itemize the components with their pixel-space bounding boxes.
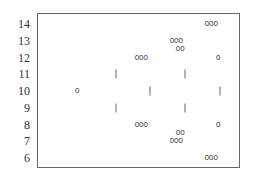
circle-marker: o xyxy=(216,121,220,129)
y-tick-label: 14 xyxy=(10,18,30,30)
plot-frame xyxy=(37,13,240,168)
y-tick-label: 10 xyxy=(10,85,30,97)
bar-marker xyxy=(185,103,186,112)
bar-marker xyxy=(116,103,117,112)
y-tick-label: 7 xyxy=(10,135,30,147)
bar-marker xyxy=(116,70,117,79)
y-tick-label: 9 xyxy=(10,102,30,114)
circle-marker: ooo xyxy=(204,20,217,28)
circle-marker: ooo xyxy=(134,121,147,129)
bar-marker xyxy=(150,87,151,96)
y-tick-label: 13 xyxy=(10,35,30,47)
circle-marker: oo xyxy=(176,45,185,53)
circle-marker: o xyxy=(75,87,79,95)
bar-marker xyxy=(220,87,221,96)
bar-marker xyxy=(185,70,186,79)
circle-marker: o xyxy=(216,54,220,62)
y-tick-label: 11 xyxy=(10,68,30,80)
y-tick-label: 8 xyxy=(10,119,30,131)
y-tick-label: 6 xyxy=(10,152,30,164)
circle-marker: oo xyxy=(176,129,185,137)
circle-marker: ooo xyxy=(204,154,217,162)
circle-marker: ooo xyxy=(134,54,147,62)
circle-marker: ooo xyxy=(169,137,182,145)
y-tick-label: 12 xyxy=(10,52,30,64)
